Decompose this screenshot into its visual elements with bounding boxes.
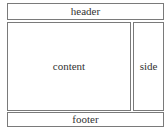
header-label: header [71, 6, 100, 17]
content-region: content [7, 22, 131, 111]
side-region: side [133, 22, 164, 111]
content-label: content [53, 61, 85, 72]
footer-label: footer [72, 114, 98, 125]
side-label: side [140, 61, 158, 72]
header-region: header [7, 3, 164, 20]
footer-region: footer [7, 112, 164, 127]
